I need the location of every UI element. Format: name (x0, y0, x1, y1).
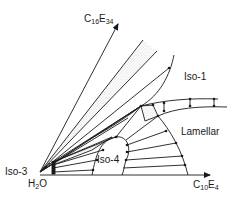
iso-3-label: Iso-3 (5, 167, 27, 177)
lamellar-label: Lamellar (181, 127, 219, 137)
upper-axis-label: C16E34 (84, 14, 114, 25)
iso-3-region (52, 162, 55, 174)
iso-1-label: Iso-1 (184, 72, 206, 82)
right-axis-label: C10E4 (193, 180, 219, 191)
phase-diagram (0, 0, 237, 201)
three-phase-triangle-upper (141, 105, 158, 121)
origin-label: H2O (28, 179, 47, 190)
lamellar-upper-boundary-2 (158, 107, 227, 116)
iso-4-label: Iso-4 (97, 155, 119, 165)
